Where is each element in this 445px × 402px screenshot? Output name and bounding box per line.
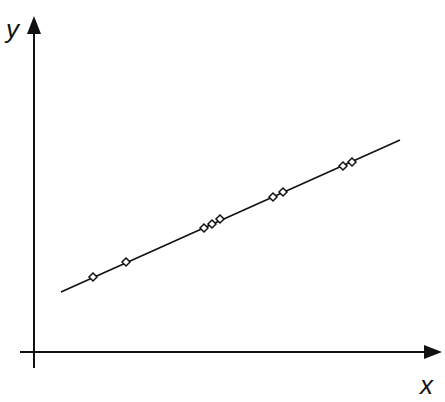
- data-point: [339, 162, 347, 170]
- y-axis-arrow-icon: [27, 16, 41, 34]
- axes: [20, 16, 442, 368]
- data-point: [348, 158, 356, 166]
- data-point: [208, 220, 216, 228]
- y-axis-label: y: [6, 14, 19, 45]
- chart-canvas: [0, 0, 445, 402]
- x-axis-label: x: [420, 370, 433, 401]
- data-point: [89, 273, 97, 281]
- data-point: [200, 224, 208, 232]
- data-point: [269, 193, 277, 201]
- x-axis-arrow-icon: [424, 345, 442, 359]
- data-point: [279, 188, 287, 196]
- data-points: [89, 158, 356, 281]
